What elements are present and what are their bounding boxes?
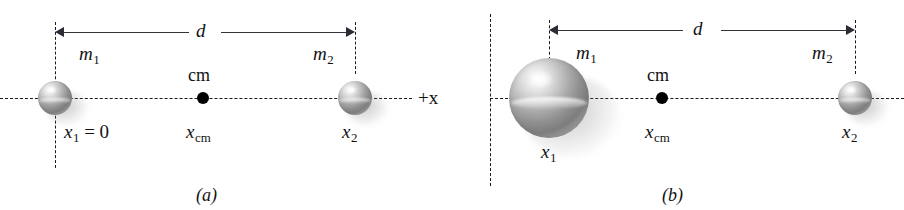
position-subscript-xcm-a: cm [194, 130, 210, 145]
sphere-m1-a [38, 81, 72, 115]
arrow-head-right-b [846, 25, 855, 35]
sphere-m2-b [838, 81, 872, 115]
panel-caption-a: (a) [196, 186, 217, 204]
sphere-rim-m2-a [338, 81, 372, 115]
position-subscript-x1-b: 1 [549, 150, 556, 165]
panel-caption-b: (b) [662, 186, 683, 204]
dimension-label-d-a: d [196, 21, 206, 40]
position-label-x2-b: x2 [842, 122, 857, 145]
mass-subscript-m2-b: 2 [826, 51, 833, 66]
vertical-guide-origin-b [490, 14, 491, 186]
sphere-m1-b [509, 58, 589, 138]
panel-a: d m1 m2 cm x1 = 0 [0, 0, 452, 210]
mass-label-m2-a: m2 [313, 44, 334, 67]
position-value-x1-a: = 0 [79, 121, 109, 142]
cm-label-a: cm [188, 66, 210, 84]
sphere-rim-m1-b [509, 58, 589, 138]
mass-subscript-m1-a: 1 [93, 52, 100, 67]
dimension-segment-right-b [721, 30, 847, 31]
mass-label-m1-a: m1 [79, 44, 100, 67]
vertical-guide-m2-b [855, 20, 856, 74]
position-subscript-x2-b: 2 [850, 130, 857, 145]
sphere-rim-m1-a [38, 81, 72, 115]
position-subscript-xcm-b: cm [653, 130, 669, 145]
dimension-segment-right-a [221, 32, 347, 33]
position-label-x1-b: x1 [541, 142, 556, 165]
axis-label-a: +x [418, 88, 438, 107]
arrow-head-right-a [346, 27, 355, 37]
center-of-mass-dot-a [197, 92, 209, 104]
position-label-xcm-b: xcm [645, 122, 670, 145]
sphere-rim-m2-b [838, 81, 872, 115]
position-label-x1-a: x1 = 0 [64, 122, 109, 145]
mass-subscript-m1-b: 1 [590, 51, 597, 66]
dimension-label-d-b: d [693, 19, 703, 38]
mass-label-m1-b: m1 [576, 43, 597, 66]
center-of-mass-dot-b [656, 92, 668, 104]
mass-subscript-m2-a: 2 [327, 52, 334, 67]
mass-symbol-m1-b: m [576, 42, 590, 63]
position-label-xcm-a: xcm [186, 122, 211, 145]
mass-label-m2-b: m2 [812, 43, 833, 66]
position-subscript-x2-a: 2 [350, 130, 357, 145]
dimension-segment-left-b [557, 30, 683, 31]
mass-symbol-m1-a: m [79, 43, 93, 64]
dimension-segment-left-a [63, 32, 189, 33]
panel-b: d m1 m2 cm x1 [452, 0, 904, 210]
mass-symbol-m2-b: m [812, 42, 826, 63]
position-label-x2-a: x2 [342, 122, 357, 145]
mass-symbol-m2-a: m [313, 43, 327, 64]
cm-label-b: cm [647, 66, 669, 84]
center-of-mass-figure: d m1 m2 cm x1 = 0 [0, 0, 904, 210]
sphere-m2-a [338, 81, 372, 115]
vertical-guide-m2-a [355, 22, 356, 74]
